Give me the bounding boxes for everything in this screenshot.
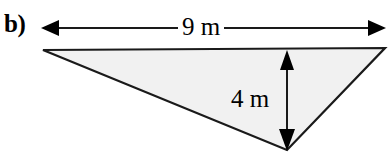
base-dimension-label: 9 m <box>178 14 224 39</box>
triangle-figure: b) 9 m 4 m <box>0 0 392 157</box>
part-label: b) <box>4 11 25 36</box>
triangle-shape <box>43 48 385 150</box>
height-dimension-label: 4 m <box>228 86 272 111</box>
base-arrowhead-right-icon <box>368 20 386 36</box>
base-arrowhead-left-icon <box>41 20 59 36</box>
